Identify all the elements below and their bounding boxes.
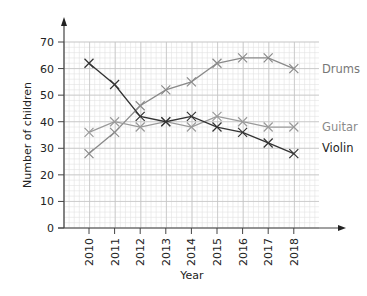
grid-minor [64,42,319,228]
y-tick-label: 60 [40,63,54,76]
x-tick-label: 2018 [288,238,301,266]
legend-label-drums: Drums [322,62,360,76]
x-tick-label: 2017 [262,238,275,266]
y-tick-label: 50 [40,89,54,102]
x-tick-label: 2010 [83,238,96,266]
x-tick-label: 2011 [109,238,122,266]
y-tick-label: 30 [40,142,54,155]
x-axis-arrow-icon [338,225,346,231]
x-tick-label: 2012 [134,238,147,266]
y-tick-label: 40 [40,116,54,129]
line-chart: 0102030405060702010201120122013201420152… [0,0,367,296]
y-tick-label: 10 [40,195,54,208]
x-tick-label: 2015 [211,238,224,266]
grid-major [64,42,319,228]
y-axis-title: Number of children [21,82,34,188]
x-tick-label: 2014 [185,238,198,266]
y-tick-label: 0 [47,222,54,235]
y-tick-label: 70 [40,36,54,49]
x-marker-icon [187,77,196,86]
y-axis-arrow-icon [61,17,67,26]
x-tick-label: 2013 [160,238,173,266]
x-tick-label: 2016 [237,238,250,266]
legend-label-guitar: Guitar [322,120,358,134]
x-axis-title: Year [179,269,204,282]
y-tick-label: 20 [40,169,54,182]
legend-label-violin: Violin [322,141,354,155]
